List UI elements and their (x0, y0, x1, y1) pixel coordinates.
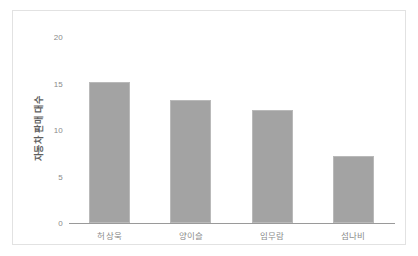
x-axis-tick-label: 임무람 (260, 229, 285, 241)
y-axis-tick-label: 15 (54, 79, 63, 88)
y-axis-tick-label: 0 (58, 219, 63, 228)
y-axis-tick-labels: 05101520 (13, 11, 63, 246)
bar[interactable] (252, 110, 293, 223)
y-axis-tick-label: 5 (58, 172, 63, 181)
x-axis-line (69, 223, 395, 224)
bar[interactable] (170, 100, 211, 223)
x-axis-tick-label: 양이슬 (179, 229, 204, 241)
bar[interactable] (333, 156, 374, 223)
bar-slot (150, 37, 231, 223)
y-axis-tick-label: 10 (54, 126, 63, 135)
x-axis-tick-labels: 허상욱양이슬임무람섬나비 (69, 229, 394, 245)
chart-card: 자동차 판매 대수 05101520 허상욱양이슬임무람섬나비 (12, 10, 406, 245)
x-axis-tick-label: 섬나비 (341, 229, 366, 241)
plot-area (69, 37, 394, 223)
bar-slot (232, 37, 313, 223)
y-axis-tick-label: 20 (54, 33, 63, 42)
bar[interactable] (89, 82, 130, 223)
x-axis-tick-label: 허상욱 (97, 229, 122, 241)
bar-slot (69, 37, 150, 223)
bar-slot (313, 37, 394, 223)
